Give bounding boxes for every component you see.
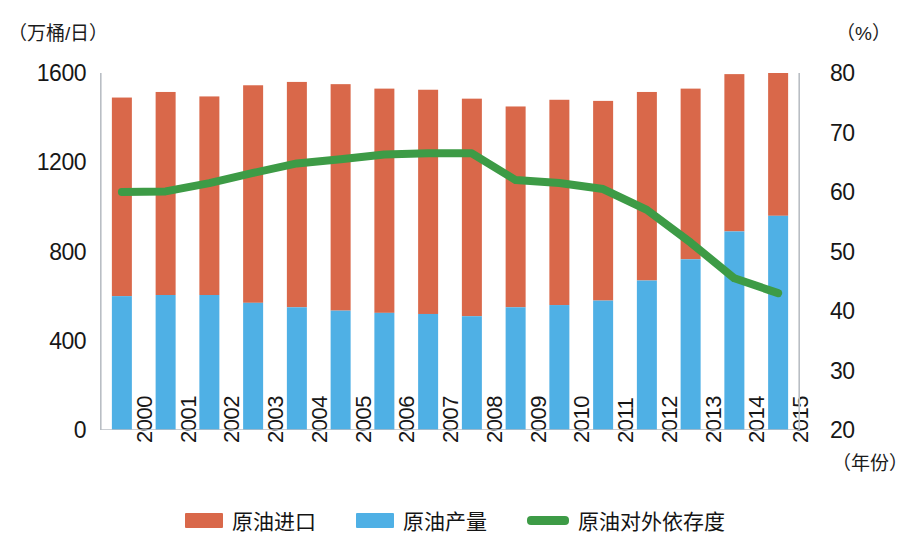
bar-segment-production [549,305,569,430]
legend-item[interactable]: 原油进口 [185,505,316,535]
bar-stack [156,92,176,430]
y-tick-label-left: 800 [12,239,86,266]
right-axis-spine [799,73,800,430]
bar-stack [593,101,613,430]
bar-stack [549,100,569,430]
bar-stack [462,99,482,430]
bar-segment-import [724,74,744,231]
oil-chart: （万桶/日） （%） （年份） 040080012001600 20304050… [0,0,909,539]
bar-segment-production [506,307,526,430]
legend-line-swatch-icon [527,516,569,525]
x-axis-unit-label: （年份） [832,448,908,475]
y-tick-label-right: 20 [830,417,900,444]
bar-segment-production [199,295,219,430]
chart-legend: 原油进口原油产量原油对外依存度 [0,505,909,535]
right-axis-unit-label: （%） [836,18,891,45]
y-tick-label-left: 1200 [12,149,86,176]
y-tick-label-right: 60 [830,179,900,206]
y-tick-label-right: 80 [830,60,900,87]
bar-segment-import [374,89,394,313]
y-tick-label-left: 0 [12,417,86,444]
bar-segment-import [637,92,657,281]
legend-item[interactable]: 原油产量 [356,505,487,535]
left-axis-spine [100,73,101,430]
legend-label: 原油对外依存度 [578,505,725,535]
bar-stack [287,82,307,430]
legend-item[interactable]: 原油对外依存度 [527,505,725,535]
bar-segment-production [331,311,351,430]
y-tick-label-left: 400 [12,328,86,355]
bar-stack [506,106,526,430]
bar-stack [637,92,657,430]
bar-segment-production [156,295,176,430]
legend-label: 原油产量 [403,505,487,535]
bar-stack [331,84,351,430]
bar-segment-production [724,231,744,430]
bar-segment-production [768,216,788,430]
plot-area [100,73,800,430]
y-tick-label-right: 50 [830,239,900,266]
bar-segment-import [506,106,526,307]
bar-segment-production [418,314,438,430]
bar-segment-production [112,296,132,430]
bar-segment-import [287,82,307,307]
bar-stack [418,90,438,430]
bar-segment-import [331,84,351,310]
legend-bar-swatch-icon [356,513,394,528]
bar-stack [243,85,263,430]
bar-segment-production [637,281,657,430]
bar-segment-production [374,313,394,430]
bar-segment-production [462,316,482,430]
bar-segment-import [418,90,438,314]
bar-segment-import [768,73,788,216]
left-axis-unit-label: （万桶/日） [8,18,108,45]
bar-segment-import [549,100,569,305]
bar-segment-import [243,85,263,303]
bar-segment-import [593,101,613,301]
y-tick-label-right: 40 [830,298,900,325]
y-tick-label-right: 70 [830,120,900,147]
bar-segment-import [112,98,132,297]
y-tick-label-left: 1600 [12,60,86,87]
dependency-line [122,153,778,293]
bar-segment-production [287,307,307,430]
plot-svg [100,73,800,430]
legend-bar-swatch-icon [185,513,223,528]
bar-segment-import [199,96,219,295]
bar-stack [681,89,701,430]
bar-stack [374,89,394,430]
y-tick-label-right: 30 [830,358,900,385]
bar-stack [768,73,788,430]
bar-stack [724,74,744,430]
legend-label: 原油进口 [232,505,316,535]
bar-segment-production [243,303,263,430]
bar-segment-import [462,99,482,317]
bar-segment-production [681,259,701,430]
bar-stack [199,96,219,430]
bar-stack [112,98,132,430]
bar-segment-production [593,301,613,430]
